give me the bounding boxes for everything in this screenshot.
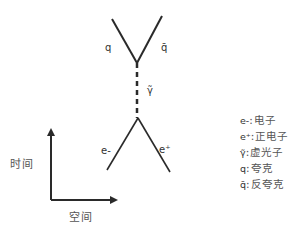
legend-description: 夸克 — [251, 162, 273, 174]
quark-label: q — [105, 43, 111, 53]
time-axis-label: 时间 — [10, 159, 34, 170]
positron-label: e⁺ — [159, 145, 170, 155]
legend-description: 电子 — [254, 114, 276, 126]
legend: e-:电子 e⁺:正电子 γ̃:虚光子 q:夸克 q̄:反夸克 — [240, 112, 288, 192]
space-axis-label: 空间 — [69, 212, 93, 223]
antiquark-line — [137, 16, 162, 63]
electron-line — [107, 118, 138, 170]
quark-line — [112, 19, 137, 63]
virtual-photon-label: γ̃ — [147, 86, 153, 96]
legend-item: γ̃:虚光子 — [240, 144, 288, 160]
legend-description: 正电子 — [255, 130, 288, 142]
legend-item: e-:电子 — [240, 112, 288, 128]
legend-symbol: e⁺ — [240, 131, 251, 142]
electron-label: e- — [101, 146, 111, 156]
legend-item: e⁺:正电子 — [240, 128, 288, 144]
legend-item: q:夸克 — [240, 160, 288, 176]
legend-description: 虚光子 — [250, 146, 283, 158]
legend-description: 反夸克 — [251, 178, 284, 190]
legend-symbol: e- — [240, 115, 249, 126]
antiquark-label: q̄ — [161, 43, 167, 53]
legend-item: q̄:反夸克 — [240, 176, 288, 192]
